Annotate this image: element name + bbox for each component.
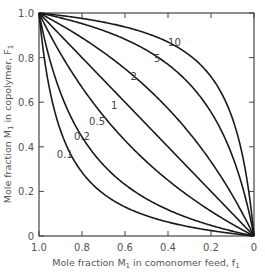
x-tick-label: 0.8 [74,242,90,253]
curve-label: 2 [130,71,136,82]
y-tick-label: 0.4 [18,142,34,153]
x-tick-label: 0.2 [203,242,219,253]
y-tick-label: 0.8 [18,53,34,64]
curve-label: 10 [168,37,181,48]
x-axis-title: Mole fraction M1 in comonomer feed, f1 [52,257,239,270]
curve-label: 0.1 [57,149,73,160]
copolymer-composition-chart: 1.00.80.60.40.2000.20.40.60.81.0 105210.… [0,0,265,275]
y-tick-label: 0.6 [18,97,34,108]
x-tick-label: 0.6 [117,242,133,253]
x-tick-label: 0.4 [160,242,176,253]
curve-label: 0.5 [89,116,105,127]
curve-r1-1 [39,13,254,236]
curves [39,13,254,236]
y-tick-label: 0 [28,231,34,242]
y-tick-label: 0.2 [18,186,34,197]
curve-label: 1 [111,100,117,111]
y-tick-label: 1.0 [18,8,34,19]
y-axis-title: Mole fraction M1 in copolymer, F1 [2,45,15,204]
x-tick-label: 0 [251,242,257,253]
curve-label: 0.2 [74,131,90,142]
curve-label: 5 [154,53,160,64]
x-tick-label: 1.0 [31,242,47,253]
